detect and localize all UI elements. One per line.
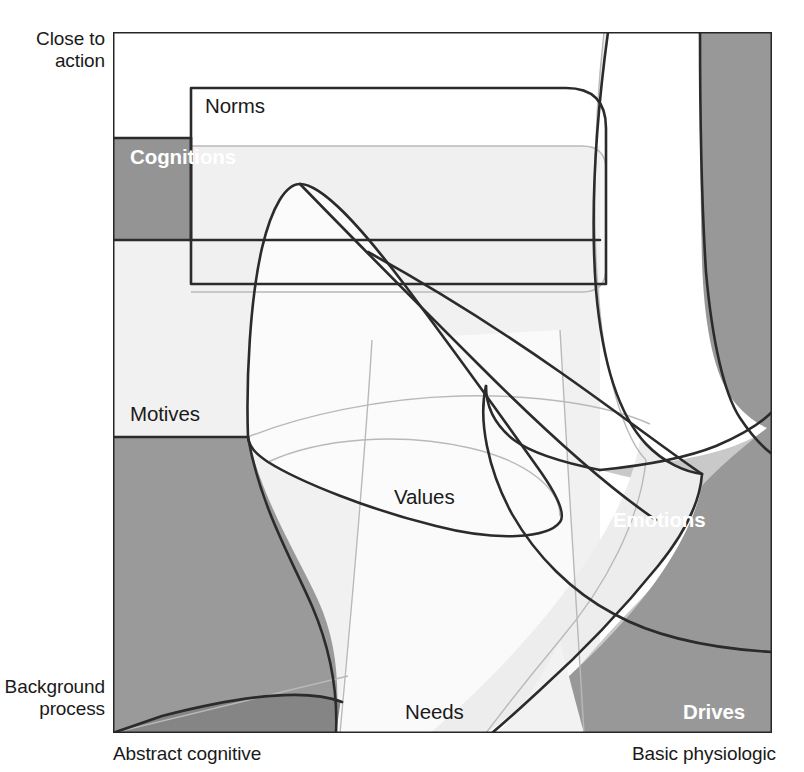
top-left-white (113, 32, 191, 138)
concept-diagram: Norms Cognitions Motives Values Emotions… (0, 0, 804, 772)
axis-label-background-process: Background process (0, 676, 105, 721)
label-cognitions: Cognitions (130, 145, 236, 168)
figure-canvas: Norms Cognitions Motives Values Emotions… (0, 0, 804, 772)
axis-label-basic-physiologic: Basic physiologic (0, 743, 776, 765)
label-drives: Drives (683, 700, 745, 723)
axis-label-close-to-action: Close to action (0, 28, 105, 73)
label-values: Values (394, 485, 455, 508)
label-emotions: Emotions (613, 508, 706, 531)
label-norms: Norms (205, 94, 265, 117)
label-motives: Motives (130, 402, 200, 425)
label-needs: Needs (405, 700, 464, 723)
region-fills (113, 32, 772, 733)
